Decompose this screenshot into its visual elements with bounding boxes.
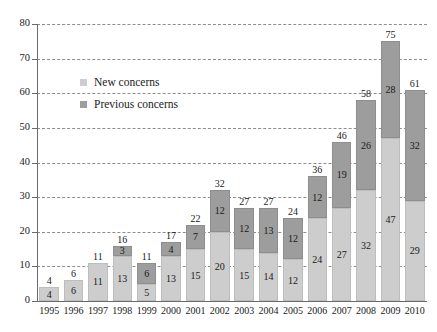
bar-value-previous-2005: 12 (283, 233, 303, 244)
legend-swatch-previous-concerns-icon (80, 101, 87, 108)
bar-value-new-1997: 11 (88, 276, 108, 287)
bar-2002[interactable]: 201232 (210, 24, 230, 301)
bar-value-previous-2007: 19 (332, 169, 352, 180)
y-tick-label-80: 80 (0, 18, 30, 28)
bars-layer: 4466111113316561113417157222012321512271… (37, 24, 427, 301)
bar-2008[interactable]: 322658 (356, 24, 376, 301)
bar-2007[interactable]: 271946 (332, 24, 352, 301)
bar-total-1999: 11 (133, 251, 161, 262)
bar-1999[interactable]: 5611 (137, 24, 157, 301)
legend-label-previous-concerns: Previous concerns (94, 98, 178, 111)
bar-value-previous-2000: 4 (161, 244, 181, 255)
bar-value-previous-2004: 13 (259, 225, 279, 236)
bar-total-1998: 16 (109, 234, 137, 245)
bar-total-2006: 36 (304, 164, 332, 175)
bar-value-new-2003: 15 (234, 270, 254, 281)
bar-value-new-2006: 24 (308, 254, 328, 265)
y-tick-label-10: 10 (0, 260, 30, 270)
bar-1998[interactable]: 13316 (113, 24, 133, 301)
bar-value-new-2004: 14 (259, 271, 279, 282)
bar-value-new-1995: 4 (39, 289, 59, 300)
bar-total-1997: 11 (84, 251, 112, 262)
bar-value-previous-2003: 12 (234, 223, 254, 234)
bar-value-new-1998: 13 (113, 273, 133, 284)
bar-value-previous-1998: 3 (113, 245, 133, 256)
bar-value-new-2002: 20 (210, 261, 230, 272)
bar-total-1995: 4 (35, 275, 63, 286)
y-tick-label-70: 70 (0, 53, 30, 63)
stacked-bar-chart: 01020304050607080 4466111113316561113417… (0, 0, 437, 332)
bar-value-previous-2010: 32 (405, 140, 425, 151)
bar-value-new-2009: 47 (381, 214, 401, 225)
bar-total-2010: 61 (401, 78, 429, 89)
y-tick-label-40: 40 (0, 157, 30, 167)
bar-1995[interactable]: 44 (39, 24, 59, 301)
y-tick-label-50: 50 (0, 122, 30, 132)
y-tick-label-30: 30 (0, 191, 30, 201)
bar-value-previous-2001: 7 (186, 231, 206, 242)
bar-value-previous-2009: 28 (381, 84, 401, 95)
bar-total-2004: 27 (255, 196, 283, 207)
bar-2004[interactable]: 141327 (259, 24, 279, 301)
bar-total-2008: 58 (352, 88, 380, 99)
y-tick-label-60: 60 (0, 87, 30, 97)
bar-value-previous-2006: 12 (308, 192, 328, 203)
bar-value-previous-1999: 6 (137, 268, 157, 279)
bar-total-2007: 46 (328, 130, 356, 141)
bar-value-previous-2008: 26 (356, 140, 376, 151)
y-tick-label-0: 0 (0, 295, 30, 305)
bar-total-2005: 24 (279, 206, 307, 217)
bar-value-new-1996: 6 (64, 285, 84, 296)
bar-2010[interactable]: 293261 (405, 24, 425, 301)
bar-2006[interactable]: 241236 (308, 24, 328, 301)
chart-legend: New concerns Previous concerns (80, 74, 260, 118)
bar-value-new-2001: 15 (186, 270, 206, 281)
bar-2009[interactable]: 472875 (381, 24, 401, 301)
bar-2000[interactable]: 13417 (161, 24, 181, 301)
bar-total-2000: 17 (157, 230, 185, 241)
bar-value-new-2000: 13 (161, 273, 181, 284)
bar-value-previous-2002: 12 (210, 205, 230, 216)
bar-2001[interactable]: 15722 (186, 24, 206, 301)
bar-total-2002: 32 (206, 178, 234, 189)
legend-label-new-concerns: New concerns (94, 76, 159, 89)
bar-value-new-2007: 27 (332, 249, 352, 260)
x-tick-label-2010: 2010 (400, 305, 430, 317)
bar-value-new-2010: 29 (405, 245, 425, 256)
bar-total-2001: 22 (182, 213, 210, 224)
bar-value-new-1999: 5 (137, 287, 157, 298)
bar-value-new-2008: 32 (356, 240, 376, 251)
legend-item-new-concerns: New concerns (80, 74, 260, 91)
x-axis-labels: 1995199619971998199920002001200220032004… (37, 305, 427, 325)
y-tick-label-20: 20 (0, 226, 30, 236)
bar-total-1996: 6 (60, 268, 88, 279)
bar-2003[interactable]: 151227 (234, 24, 254, 301)
bar-total-2003: 27 (230, 196, 258, 207)
bar-2005[interactable]: 121224 (283, 24, 303, 301)
bar-value-new-2005: 12 (283, 275, 303, 286)
legend-swatch-new-concerns-icon (80, 79, 87, 86)
bar-total-2009: 75 (377, 29, 405, 40)
bar-1996[interactable]: 66 (64, 24, 84, 301)
bar-1997[interactable]: 1111 (88, 24, 108, 301)
x-axis-line (37, 301, 427, 302)
legend-item-previous-concerns: Previous concerns (80, 96, 260, 113)
